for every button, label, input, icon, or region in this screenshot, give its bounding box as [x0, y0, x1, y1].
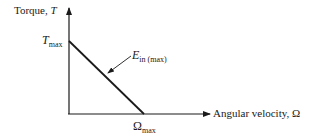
omega-max-subscript: max [142, 126, 156, 135]
omega-max-label: Ωmax [133, 120, 156, 132]
y-axis-label-text: Torque, [14, 4, 51, 16]
line-label: Ein (max) [132, 49, 167, 61]
x-axis-label-text: Angular velocity, [213, 107, 292, 119]
t-max-subscript: max [49, 40, 63, 49]
x-axis-label: Angular velocity, Ω [213, 108, 300, 119]
line-label-subscript: in (max) [139, 55, 166, 64]
y-axis-label: Torque, T [14, 5, 57, 16]
y-axis-symbol: T [51, 4, 57, 16]
t-max-symbol: T [42, 33, 49, 47]
line-label-leader [108, 56, 131, 73]
t-max-label: Tmax [42, 34, 62, 46]
x-axis-symbol: Ω [292, 107, 300, 119]
omega-max-symbol: Ω [133, 119, 142, 133]
